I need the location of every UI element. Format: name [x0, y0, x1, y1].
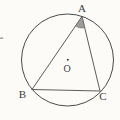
geometry-diagram: OABC: [0, 0, 120, 120]
triangle-side-AB: [32, 17, 82, 90]
circle-triangle-svg: OABC: [0, 0, 120, 120]
center-label-O: O: [63, 63, 70, 74]
shaded-angle-A: [76, 17, 85, 29]
vertex-label-C: C: [99, 90, 106, 102]
triangle-side-BC: [32, 90, 100, 92]
vertex-label-A: A: [78, 2, 86, 14]
edge-artifact-dash: [0, 38, 3, 39]
vertex-label-B: B: [19, 88, 26, 100]
center-point-dot: [67, 59, 69, 61]
